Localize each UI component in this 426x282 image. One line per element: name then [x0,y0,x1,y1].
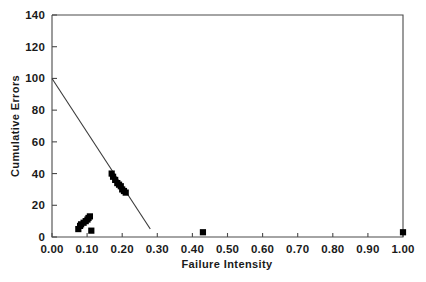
y-tick-label: 80 [32,104,45,116]
chart-figure: 0.000.100.200.300.400.500.600.700.800.90… [0,0,426,282]
x-axis-ticks: 0.000.100.200.300.400.500.600.700.800.90… [40,233,414,255]
fit-line-segment [52,78,150,229]
x-tick-label: 0.00 [40,243,63,255]
regression-fit-line [52,78,150,229]
x-tick-label: 0.20 [111,243,134,255]
x-tick-label: 0.80 [321,243,344,255]
y-tick-label: 20 [32,199,45,211]
x-tick-label: 0.50 [216,243,239,255]
x-tick-label: 0.60 [251,243,274,255]
scatter-plot: 0.000.100.200.300.400.500.600.700.800.90… [0,0,426,282]
x-axis-title: Failure Intensity [181,258,273,270]
x-tick-label: 0.40 [181,243,204,255]
data-point-marker [200,229,206,235]
x-tick-label: 0.90 [356,243,379,255]
y-tick-label: 120 [25,41,45,53]
y-tick-label: 40 [32,168,45,180]
y-tick-label: 140 [25,9,45,21]
x-tick-label: 1.00 [391,243,414,255]
data-points [75,170,406,235]
x-tick-label: 0.70 [286,243,309,255]
y-tick-label: 100 [25,72,45,84]
plot-frame [52,15,403,237]
data-point-marker [88,228,94,234]
data-point-marker [400,229,406,235]
data-point-marker [123,190,129,196]
y-axis-title: Cumulative Errors [9,75,21,177]
y-tick-label: 0 [38,231,45,243]
data-point-marker [87,213,93,219]
x-tick-label: 0.30 [146,243,169,255]
y-tick-label: 60 [32,136,45,148]
x-tick-label: 0.10 [76,243,99,255]
